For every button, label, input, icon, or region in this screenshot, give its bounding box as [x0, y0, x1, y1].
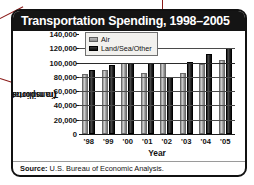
chart-card: Transportation Spending, 1998–2005 Trans… [11, 9, 247, 177]
legend-label: Air [101, 35, 110, 44]
chart-title-bar: Transportation Spending, 1998–2005 [13, 11, 245, 31]
bar [121, 63, 127, 134]
gridline [79, 63, 235, 64]
figure-root: Transportation Spending, 1998–2005 Trans… [0, 0, 254, 185]
y-axis-tick-label: 120,000 [33, 44, 77, 53]
gridline [79, 91, 235, 92]
x-axis-label: Year [79, 148, 235, 158]
y-axis-tickmark [76, 91, 79, 92]
y-axis-tickmark [76, 77, 79, 78]
plot-area-wrapper: Transportation dollars (in millions) 140… [13, 31, 244, 174]
x-axis-tick-label: '04 [197, 137, 215, 146]
y-axis-tick-label: 60,000 [33, 87, 77, 96]
x-axis-tick-label: '05 [216, 137, 234, 146]
chart-legend: AirLand/Sea/Other [85, 32, 158, 56]
bar [160, 63, 166, 134]
x-axis-tick-label: '02 [158, 137, 176, 146]
y-axis-tick-label: 80,000 [33, 72, 77, 81]
y-axis-tickmark [76, 48, 79, 49]
y-axis-tick-label: 40,000 [33, 101, 77, 110]
x-axis-tick-label: '99 [99, 137, 117, 146]
gridline [79, 120, 235, 121]
y-axis-tick-label: 100,000 [33, 58, 77, 67]
bar [141, 73, 147, 134]
y-axis-tick-label: 0 [33, 130, 77, 139]
y-axis-label: Transportation dollars (in millions) [14, 35, 32, 153]
bar [82, 74, 88, 134]
x-axis-tick-label: '98 [80, 137, 98, 146]
x-axis-ticks: '98'99'00'01'02'03'04'05 [79, 137, 235, 146]
bar [180, 73, 186, 134]
y-axis-tick-label: 20,000 [33, 115, 77, 124]
bar [187, 62, 193, 134]
source-text: U.S. Bureau of Economic Analysis. [50, 164, 164, 173]
bar [109, 65, 115, 134]
x-axis-tick-label: '03 [177, 137, 195, 146]
bar [148, 63, 154, 134]
gridline [79, 105, 235, 106]
source-note: Source: U.S. Bureau of Economic Analysis… [13, 161, 245, 173]
y-axis-tick-label: 140,000 [33, 30, 77, 39]
legend-item: Land/Sea/Other [89, 44, 152, 53]
gridline [79, 77, 235, 78]
legend-label: Land/Sea/Other [101, 44, 152, 53]
bar [89, 70, 95, 134]
y-axis-tickmark [76, 105, 79, 106]
bar [128, 63, 134, 134]
y-axis-tickmark [76, 34, 79, 35]
y-axis-tickmark [76, 120, 79, 121]
bar [102, 70, 108, 134]
legend-item: Air [89, 35, 152, 44]
source-label: Source: [20, 164, 48, 173]
y-axis-ticks: 140,000120,000100,00080,00060,00040,0002… [31, 31, 77, 174]
x-axis-tick-label: '01 [138, 137, 156, 146]
legend-swatch [89, 37, 98, 42]
x-axis-tick-label: '00 [119, 137, 137, 146]
bar [219, 60, 225, 134]
legend-swatch [89, 46, 98, 51]
bar [199, 64, 205, 134]
chart-title: Transportation Spending, 1998–2005 [21, 14, 230, 28]
bar [206, 54, 212, 134]
y-axis-tickmark [76, 63, 79, 64]
